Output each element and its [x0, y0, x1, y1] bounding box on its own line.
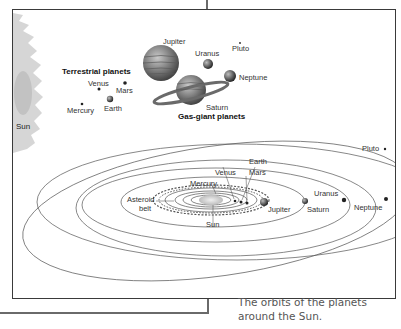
uranus-icon: [203, 59, 213, 69]
diagram-panel: Sun Terrestrial planets Mercury Venus Ea…: [12, 9, 396, 299]
mars-label: Mars: [116, 86, 133, 95]
orbit-pluto-label: Pluto: [362, 144, 379, 153]
orbit-mars-icon: [240, 201, 243, 204]
orbit-jupiter-icon: [260, 198, 268, 206]
mercury-icon: [81, 103, 84, 106]
orbit-sun-label: Sun: [206, 220, 219, 229]
earth-icon: [107, 96, 113, 102]
orbit-jupiter-label: Jupiter: [268, 205, 291, 214]
neptune-label: Neptune: [239, 73, 267, 82]
orbit-saturn-label: Saturn: [307, 205, 329, 214]
orbit-neptune-label: Neptune: [354, 203, 382, 212]
orbit-mercury-label: Mercury: [190, 179, 217, 188]
gas-giant-heading: Gas-giant planets: [178, 112, 246, 121]
terrestrial-heading: Terrestrial planets: [62, 67, 131, 76]
orbit-venus-label: Venus: [215, 168, 236, 177]
asteroid-belt-label-1: Asteroid: [127, 195, 155, 204]
orbit-mars-label: Mars: [249, 168, 266, 177]
jupiter-icon: [143, 45, 179, 81]
orbit-earth-label: Earth: [249, 157, 267, 166]
sun-label: Sun: [16, 122, 30, 131]
orbit-neptune-icon: [384, 197, 388, 201]
orbit-venus-icon: [234, 200, 237, 203]
frame-horizontal-bottom: [0, 312, 209, 314]
figure-caption: The orbits of the planets around the Sun…: [238, 295, 398, 323]
neptune-icon: [224, 70, 236, 82]
orbit-uranus-icon: [342, 198, 346, 202]
solar-system-diagram: Sun Terrestrial planets Mercury Venus Ea…: [13, 10, 395, 298]
orbit-saturn-icon: [302, 198, 308, 204]
earth-label: Earth: [104, 104, 122, 113]
sun-icon: [199, 195, 223, 205]
venus-label: Venus: [88, 79, 109, 88]
mercury-label: Mercury: [67, 106, 94, 115]
saturn-label: Saturn: [206, 103, 228, 112]
orbits: [14, 119, 395, 298]
mars-icon: [123, 81, 127, 85]
orbit-uranus-label: Uranus: [314, 189, 338, 198]
sun-edge-icon: [13, 13, 43, 153]
orbit-earth-icon: [246, 202, 249, 205]
uranus-label: Uranus: [195, 49, 219, 58]
asteroid-belt-label-2: belt: [139, 204, 152, 213]
pluto-label: Pluto: [232, 44, 249, 53]
jupiter-label: Jupiter: [163, 37, 186, 46]
orbit-pluto-icon: [384, 148, 386, 150]
